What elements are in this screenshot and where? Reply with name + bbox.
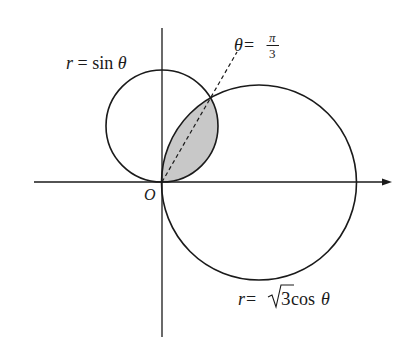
- label-sin-var: θ: [113, 53, 127, 73]
- label-sin-eq: =: [73, 53, 92, 73]
- label-cos-radicand: 3: [281, 288, 291, 309]
- label-cos-var: θ: [321, 289, 330, 309]
- x-axis-arrow-icon: [382, 179, 392, 186]
- label-sin-fn: sin: [92, 53, 113, 73]
- label-ray-numerator: π: [269, 30, 276, 45]
- polar-diagram: r = sin θ θ = π 3 O r = 3 cos θ: [0, 0, 412, 351]
- label-origin: O: [144, 186, 156, 203]
- label-ray-eq: =: [244, 35, 254, 55]
- label-ray-denominator: 3: [269, 46, 276, 61]
- label-cos-fn: cos: [291, 289, 315, 309]
- label-sin-curve: r = sin θ: [66, 53, 127, 73]
- label-cos-eq: =: [246, 289, 256, 309]
- label-ray-lhs: θ: [234, 35, 243, 55]
- label-cos-lhs: r: [238, 289, 246, 309]
